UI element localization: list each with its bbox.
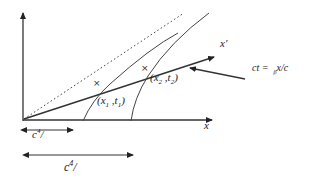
- event-marker-1: ×: [93, 78, 101, 88]
- event2-x-sub: 2: [159, 78, 163, 86]
- event-label-2: (x2 ,t2): [150, 71, 178, 86]
- span-short-label: c4/: [32, 127, 43, 140]
- spacetime-diagram: × ×: [0, 0, 316, 182]
- event2-t-sub: 2: [171, 78, 175, 86]
- x-axis-label: x: [204, 119, 209, 131]
- event1-x-sub: 1: [106, 101, 110, 109]
- span-short-suffix: /: [40, 128, 43, 140]
- event-marker-2: ×: [141, 63, 149, 73]
- equation-rhs: x/c: [276, 62, 288, 73]
- x-prime-axis-label: x': [220, 37, 227, 49]
- x-prime-axis: [24, 57, 214, 119]
- equation-lhs: ct =: [252, 62, 268, 73]
- span-long-suffix: /: [73, 160, 76, 174]
- event1-t-sub: 1: [118, 101, 122, 109]
- event-label-1: (x1 ,t1): [97, 94, 125, 109]
- pointer-arrow: [190, 68, 245, 79]
- span-long-label: c4/: [64, 159, 77, 175]
- equation-label: ct = βx/c: [252, 62, 288, 75]
